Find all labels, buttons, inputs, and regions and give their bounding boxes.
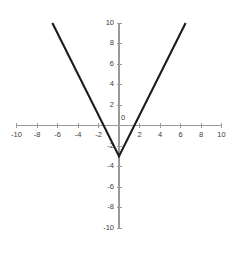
y-tick-label: 6: [110, 59, 114, 68]
chart-container: -10-8-6-4-20246810 -10-8-6-4-2246810: [0, 0, 242, 253]
y-tick-label: 8: [110, 38, 114, 47]
axes-group: [17, 23, 222, 228]
x-tick-label: -8: [34, 130, 41, 139]
x-tick-label: 4: [158, 130, 162, 139]
x-tick-label: -2: [95, 130, 102, 139]
y-tick-label: 4: [110, 79, 114, 88]
x-tick-label: 8: [199, 130, 203, 139]
x-tick-label: 0: [121, 113, 125, 122]
y-tick-label: -6: [107, 182, 114, 191]
y-tick-label: -8: [107, 202, 114, 211]
y-tick-label: 10: [106, 18, 114, 27]
x-tick-label: -6: [54, 130, 61, 139]
x-tick-label: 2: [137, 130, 141, 139]
x-tick-label: -4: [75, 130, 82, 139]
y-tick-label: -4: [107, 161, 114, 170]
x-tick-label: 10: [217, 130, 225, 139]
x-tick-label: 6: [178, 130, 182, 139]
y-tick-label: -10: [103, 223, 114, 232]
x-tick-label: -10: [11, 130, 22, 139]
coordinate-plane: -10-8-6-4-20246810 -10-8-6-4-2246810: [0, 0, 242, 253]
y-tick-label: 2: [110, 100, 114, 109]
